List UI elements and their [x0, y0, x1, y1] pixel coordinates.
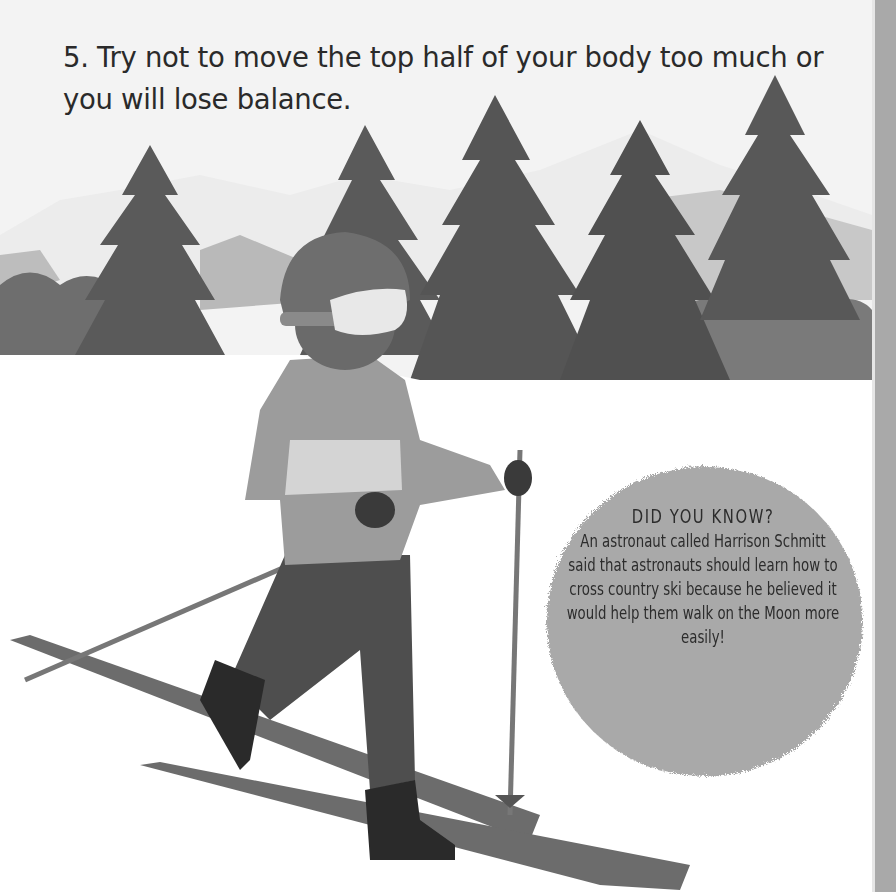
- book-page: 5. Try not to move the top half of your …: [0, 0, 872, 892]
- did-you-know-box: DID YOU KNOW? An astronaut called Harris…: [560, 505, 846, 649]
- page-edge: [875, 0, 896, 892]
- instruction-text: 5. Try not to move the top half of your …: [63, 36, 843, 120]
- fact-body: An astronaut called Harrison Schmitt sai…: [566, 529, 840, 649]
- ski-illustration: [0, 0, 872, 892]
- fact-title: DID YOU KNOW?: [591, 505, 814, 527]
